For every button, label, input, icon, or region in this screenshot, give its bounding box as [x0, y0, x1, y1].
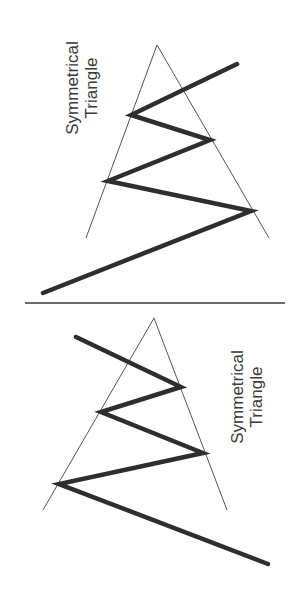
- top-label: Symmetrical Triangle: [63, 41, 101, 135]
- bottom-label-line1: Symmetrical: [228, 350, 247, 444]
- symmetrical-triangle-diagram: Symmetrical Triangle Symmetrical Triangl…: [0, 0, 300, 605]
- top-panel: Symmetrical Triangle: [43, 41, 269, 293]
- bottom-triangle-right-trendline: [154, 318, 227, 510]
- bottom-panel: Symmetrical Triangle: [43, 318, 268, 564]
- top-label-line2: Triangle: [82, 58, 101, 119]
- bottom-label: Symmetrical Triangle: [228, 350, 266, 444]
- top-label-line1: Symmetrical: [63, 41, 82, 135]
- bottom-label-line2: Triangle: [247, 367, 266, 428]
